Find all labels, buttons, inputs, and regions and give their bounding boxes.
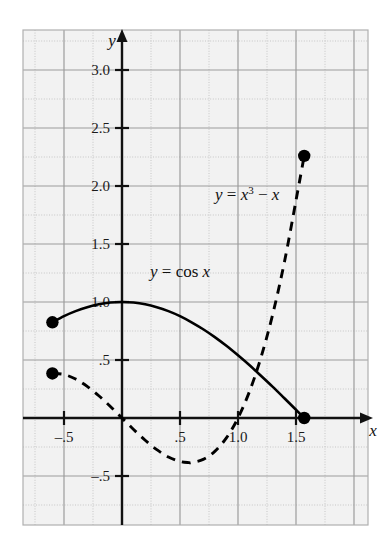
y-tick-label: 2.5 (91, 120, 110, 136)
y-tick-label: 2.0 (91, 178, 110, 194)
x-tick-label: –.5 (54, 429, 74, 445)
curve-endpoint-dot (46, 367, 58, 379)
graph-canvas: 3.02.52.01.51.0.5–.5–.5.51.01.5 x y y = … (0, 0, 391, 553)
curve-endpoint-dot (46, 316, 58, 328)
y-tick-label: 1.5 (91, 236, 110, 252)
curve-label-cosine: y = cos x (148, 262, 211, 281)
y-tick-label: .5 (99, 352, 110, 368)
curve-endpoint-dot (298, 150, 310, 162)
y-axis-name: y (106, 31, 116, 50)
y-tick-label: 3.0 (91, 62, 110, 78)
y-tick-label: –.5 (90, 468, 110, 484)
math-graph-figure: 3.02.52.01.51.0.5–.5–.5.51.01.5 x y y = … (0, 0, 391, 553)
curve-label-cubic: y = x3 − x (213, 184, 280, 204)
x-tick-label: 1.0 (229, 429, 248, 445)
curve-endpoint-dot (298, 412, 310, 424)
x-tick-label: .5 (174, 429, 185, 445)
x-axis-name: x (368, 421, 377, 440)
x-tick-label: 1.5 (287, 429, 306, 445)
